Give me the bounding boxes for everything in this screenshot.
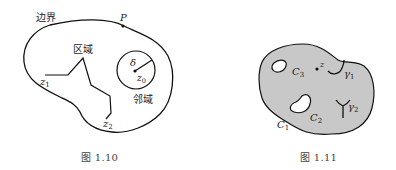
figure-1-11: C3 z γ1 γ2 C2 C1 xyxy=(259,44,374,134)
boundary-curve xyxy=(24,20,173,132)
z2-label: z2 xyxy=(102,118,113,131)
caption-fig-1-11: 图 1.11 xyxy=(300,149,337,164)
z-label: z xyxy=(319,60,325,69)
figures-canvas: P 边界 区域 z1 z2 δ z0 邻域 C3 z xyxy=(0,0,396,170)
figure-1-10: P 边界 区域 z1 z2 δ z0 邻域 xyxy=(24,12,173,132)
point-z-dot xyxy=(315,67,318,70)
caption-fig-1-10: 图 1.10 xyxy=(81,149,118,164)
z0-label: z0 xyxy=(136,73,146,85)
delta-label: δ xyxy=(130,57,136,68)
point-p-dot xyxy=(121,24,124,27)
boundary-label: 边界 xyxy=(36,12,56,23)
point-p-label: P xyxy=(119,12,127,23)
region-label: 区域 xyxy=(73,43,93,55)
neighborhood-label: 邻域 xyxy=(133,93,153,105)
radius-line xyxy=(135,60,152,71)
